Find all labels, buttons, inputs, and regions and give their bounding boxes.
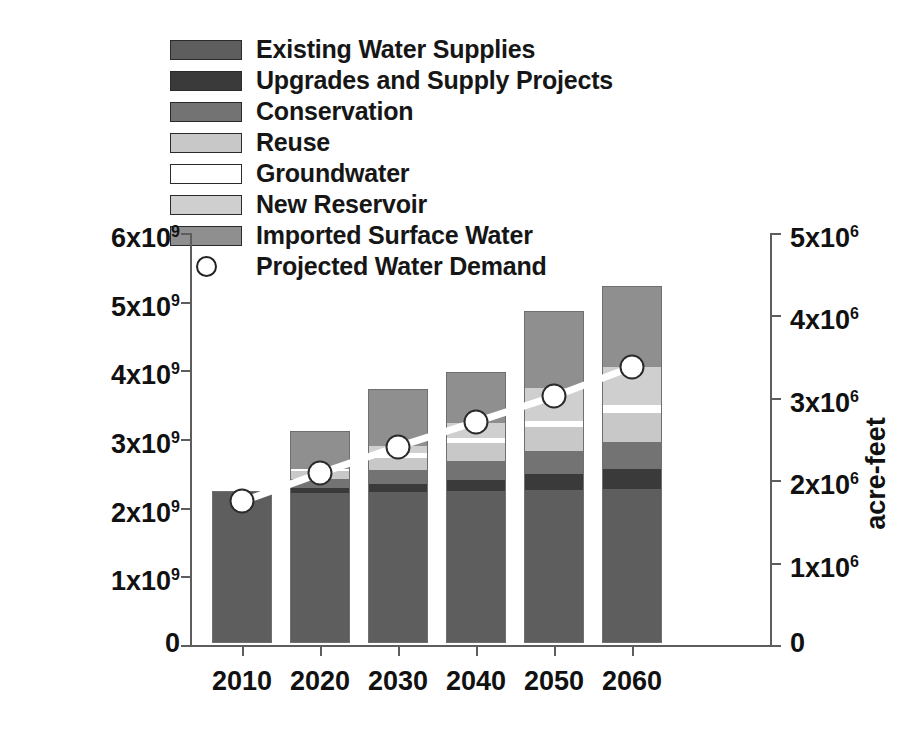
legend-swatch <box>170 133 242 153</box>
y-tick-label-right: 2x106 <box>790 465 859 499</box>
y-tick-left <box>181 508 190 510</box>
y-tick-right <box>772 480 781 482</box>
y-tick-left <box>181 302 190 304</box>
x-tick <box>242 647 244 656</box>
water-supply-chart: Existing Water SuppliesUpgrades and Supp… <box>0 0 906 741</box>
y-tick-label-left: 3x109 <box>111 424 180 458</box>
y-tick-left <box>181 439 190 441</box>
y-tick-right <box>772 398 781 400</box>
x-tick <box>632 647 634 656</box>
y-tick-label-left: 2x109 <box>111 493 180 527</box>
y-axis-left-title: cubic meters <box>0 350 1 517</box>
legend-item-label: Existing Water Supplies <box>256 37 535 62</box>
legend-item[interactable]: Reuse <box>170 127 690 158</box>
legend-item[interactable]: Conservation <box>170 96 690 127</box>
y-axis-left-tick-labels: 01x1092x1093x1094x1095x1096x109 <box>40 233 180 647</box>
demand-marker[interactable] <box>230 489 255 514</box>
legend-item-label: Conservation <box>256 99 413 124</box>
y-tick-right <box>772 645 781 647</box>
x-tick <box>398 647 400 656</box>
y-tick-right <box>772 233 781 235</box>
y-tick-left <box>181 370 190 372</box>
y-tick-right <box>772 315 781 317</box>
x-tick-label: 2060 <box>577 668 687 695</box>
legend-swatch <box>170 71 242 91</box>
legend-item-label: Groundwater <box>256 161 409 186</box>
demand-marker[interactable] <box>542 384 567 409</box>
demand-marker[interactable] <box>386 434 411 459</box>
x-tick <box>320 647 322 656</box>
y-tick-label-right: 1x106 <box>790 548 859 582</box>
y-tick-label-left: 4x109 <box>111 355 180 389</box>
y-tick-label-left: 6x109 <box>111 218 180 252</box>
demand-polyline <box>242 367 632 502</box>
y-axis-right-title: acre-feet <box>863 417 890 530</box>
legend-swatch <box>170 40 242 60</box>
projected-demand-line <box>190 233 772 647</box>
legend-swatch <box>170 164 242 184</box>
legend-item[interactable]: New Reservoir <box>170 189 690 220</box>
legend-swatch <box>170 102 242 122</box>
y-tick-label-right: 3x106 <box>790 383 859 417</box>
legend-item-label: Reuse <box>256 130 330 155</box>
demand-marker[interactable] <box>464 409 489 434</box>
y-tick-label-left: 5x109 <box>111 287 180 321</box>
legend-item[interactable]: Upgrades and Supply Projects <box>170 65 690 96</box>
y-tick-label-right: 0 <box>790 630 805 657</box>
legend-item-label: New Reservoir <box>256 192 427 217</box>
y-tick-left <box>181 233 190 235</box>
legend-item[interactable]: Groundwater <box>170 158 690 189</box>
y-tick-label-left: 1x109 <box>111 561 180 595</box>
y-tick-left <box>181 645 190 647</box>
y-tick-label-right: 4x106 <box>790 300 859 334</box>
x-tick <box>554 647 556 656</box>
demand-marker[interactable] <box>308 461 333 486</box>
plot-area <box>190 233 772 647</box>
demand-marker[interactable] <box>620 354 645 379</box>
y-tick-right <box>772 563 781 565</box>
y-tick-label-right: 5x106 <box>790 218 859 252</box>
legend-item[interactable]: Existing Water Supplies <box>170 34 690 65</box>
y-tick-left <box>181 576 190 578</box>
y-tick-label-left: 0 <box>165 630 180 657</box>
legend-swatch <box>170 195 242 215</box>
legend-item-label: Upgrades and Supply Projects <box>256 68 613 93</box>
x-tick <box>476 647 478 656</box>
